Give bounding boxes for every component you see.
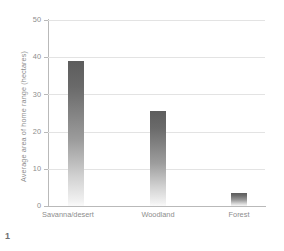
y-tick-label-0: 0 <box>11 202 41 209</box>
x-axis-line <box>48 206 266 207</box>
figure-number: 1 <box>5 232 10 241</box>
bar-woodland <box>150 111 166 206</box>
y-tick-label-50: 50 <box>11 16 41 23</box>
bar-forest <box>231 193 247 206</box>
x-tick-label-woodland: Woodland <box>122 211 194 219</box>
y-tick-label-10: 10 <box>11 165 41 172</box>
y-tick-label-30: 30 <box>11 91 41 98</box>
y-tick-label-20: 20 <box>11 128 41 135</box>
figure-bar-chart: Average area of home range (hectares) 50… <box>0 0 284 251</box>
gridline-40 <box>48 57 265 58</box>
gridline-50 <box>48 20 265 21</box>
y-tick-label-40: 40 <box>11 53 41 60</box>
x-tick-label-forest: Forest <box>207 211 271 219</box>
bar-savanna-desert <box>68 61 84 206</box>
x-tick-label-savanna-desert: Savanna/desert <box>36 211 100 219</box>
plot-area <box>48 20 265 206</box>
